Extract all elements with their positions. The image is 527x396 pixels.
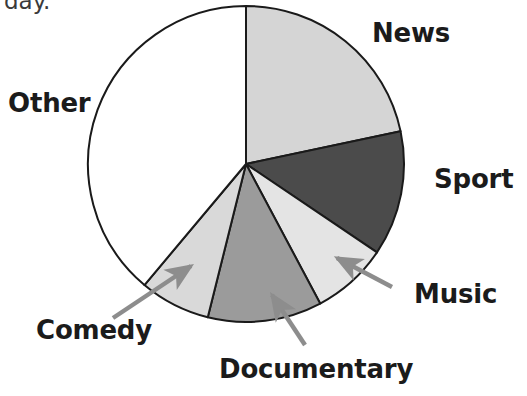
pie-label-sport: Sport bbox=[434, 166, 513, 192]
pie-chart-figure: day. News Sport Music Documentary Comedy… bbox=[0, 0, 527, 396]
pie-label-news: News bbox=[372, 20, 450, 46]
cropped-caption-text: day. bbox=[4, 0, 50, 13]
pie-slice-group bbox=[88, 6, 404, 322]
pie-label-comedy: Comedy bbox=[36, 317, 152, 343]
pie-label-music: Music bbox=[414, 281, 497, 307]
pie-label-other: Other bbox=[8, 90, 91, 116]
pie-label-documentary: Documentary bbox=[219, 356, 413, 382]
